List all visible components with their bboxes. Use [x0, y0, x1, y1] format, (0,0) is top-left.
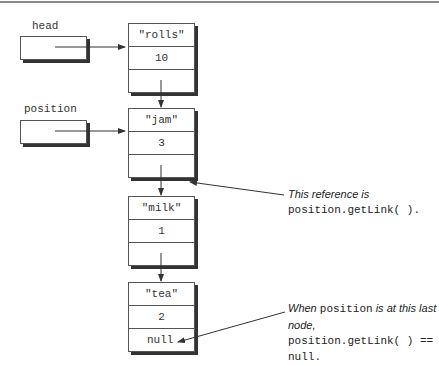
reference-note-text: This reference is: [288, 186, 420, 202]
last-node-note-text: When: [288, 302, 320, 314]
reference-callout-arrow: [190, 182, 284, 195]
reference-note-code: position.getLink( ).: [288, 202, 420, 218]
reference-note: This reference is position.getLink( ).: [288, 186, 420, 218]
null-callout-arrow: [178, 312, 285, 342]
last-node-note-code-2: position.getLink( ) == null.: [288, 333, 439, 365]
linked-list-diagram: head position "rolls" 10 "jam" 3 "milk" …: [0, 0, 439, 365]
last-node-note: When position is at this last node, posi…: [288, 300, 439, 365]
last-node-note-code: position: [320, 303, 373, 315]
